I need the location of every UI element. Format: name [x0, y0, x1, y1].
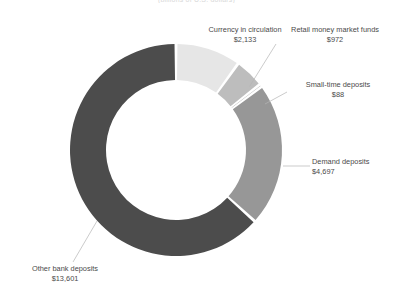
callout-label: Demand deposits [312, 157, 392, 167]
callout-other-bank-deposits: Other bank deposits $13,601 [10, 264, 120, 283]
callout-value: $4,697 [312, 167, 392, 177]
callout-value: $972 [278, 35, 392, 45]
donut-chart: (billions of U.S. dollars) Currency in c… [0, 0, 393, 304]
donut-slice [229, 88, 282, 220]
callout-value: $13,601 [10, 274, 120, 284]
callout-demand-deposits: Demand deposits $4,697 [312, 157, 392, 176]
leader-line-retail [250, 44, 277, 87]
donut-chart-svg [0, 0, 393, 304]
donut-slice-layer [70, 44, 282, 256]
callout-label: Small-time deposits [288, 80, 388, 90]
callout-label: Other bank deposits [10, 264, 120, 274]
callout-label: Retail money market funds [278, 25, 392, 35]
callout-small-time-deposits: Small-time deposits $88 [288, 80, 388, 99]
callout-value: $88 [288, 90, 388, 100]
callout-retail-money-market-funds: Retail money market funds $972 [278, 25, 392, 44]
leader-line-other [73, 221, 97, 262]
